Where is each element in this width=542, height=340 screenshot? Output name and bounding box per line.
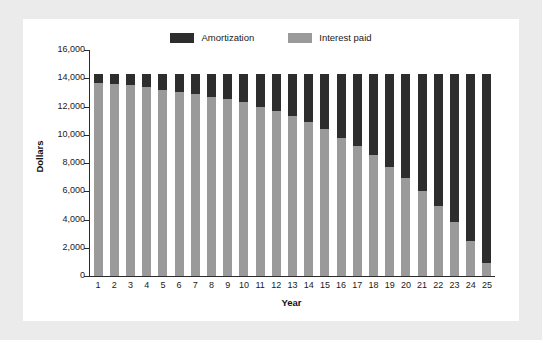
x-axis-tick-label: 7 xyxy=(193,279,198,291)
bar-segment-amortization xyxy=(369,74,378,155)
bar-segment-amortization xyxy=(207,74,216,97)
bar-segment-interest-paid xyxy=(320,129,329,276)
bar-segment-interest-paid xyxy=(191,94,200,276)
x-axis-tick-label: 16 xyxy=(336,279,346,291)
bar-column[interactable] xyxy=(450,74,459,276)
bar-column[interactable] xyxy=(175,74,184,276)
x-axis-tick-label: 6 xyxy=(177,279,182,291)
x-axis-tick-label: 12 xyxy=(271,279,281,291)
bar-segment-amortization xyxy=(175,74,184,92)
bar-column[interactable] xyxy=(191,74,200,276)
bar-segment-amortization xyxy=(158,74,167,90)
legend-entry-interest-paid[interactable]: Interest paid xyxy=(288,33,371,43)
bar-segment-interest-paid xyxy=(450,222,459,276)
legend-label-amortization: Amortization xyxy=(201,33,254,43)
x-axis-tick-label: 18 xyxy=(368,279,378,291)
bar-column[interactable] xyxy=(466,74,475,276)
chart-figure: Amortization Interest paid 02,0004,0006,… xyxy=(23,19,519,321)
bar-segment-amortization xyxy=(239,74,248,102)
plot-area: 02,0004,0006,0008,00010,00012,00014,0001… xyxy=(89,50,494,276)
bar-column[interactable] xyxy=(369,74,378,276)
x-axis-tick-label: 15 xyxy=(320,279,330,291)
bar-segment-amortization xyxy=(94,74,103,82)
bar-segment-interest-paid xyxy=(158,90,167,276)
x-axis-tick-label: 1 xyxy=(96,279,101,291)
bar-segment-interest-paid xyxy=(94,83,103,277)
bar-column[interactable] xyxy=(223,74,232,276)
x-axis-tick-label: 3 xyxy=(128,279,133,291)
chart-legend: Amortization Interest paid xyxy=(23,29,519,47)
x-axis-line xyxy=(89,276,495,277)
legend-entry-amortization[interactable]: Amortization xyxy=(170,33,254,43)
bar-column[interactable] xyxy=(434,74,443,276)
bar-segment-interest-paid xyxy=(385,167,394,276)
bar-segment-interest-paid xyxy=(288,116,297,276)
bar-segment-interest-paid xyxy=(256,107,265,276)
x-axis-tick-label: 23 xyxy=(449,279,459,291)
bar-segment-interest-paid xyxy=(142,87,151,276)
bar-series-group xyxy=(90,50,495,276)
bar-column[interactable] xyxy=(110,74,119,276)
x-axis-tick-label: 11 xyxy=(255,279,264,291)
bar-segment-amortization xyxy=(337,74,346,138)
bar-column[interactable] xyxy=(288,74,297,276)
bar-segment-amortization xyxy=(385,74,394,167)
bar-column[interactable] xyxy=(94,74,103,276)
bar-segment-interest-paid xyxy=(126,85,135,276)
bar-segment-amortization xyxy=(142,74,151,87)
y-axis-tick-label: 2,000 xyxy=(62,242,85,253)
bar-segment-amortization xyxy=(450,74,459,222)
bar-column[interactable] xyxy=(207,74,216,276)
y-axis-tick-label: 8,000 xyxy=(62,157,85,168)
bar-segment-amortization xyxy=(223,74,232,99)
x-axis-tick-label: 25 xyxy=(482,279,492,291)
bar-segment-interest-paid xyxy=(353,146,362,276)
bar-segment-amortization xyxy=(466,74,475,241)
x-axis-tick-label: 10 xyxy=(239,279,249,291)
bar-segment-interest-paid xyxy=(207,97,216,276)
bar-column[interactable] xyxy=(385,74,394,276)
bar-column[interactable] xyxy=(304,74,313,276)
bar-column[interactable] xyxy=(320,74,329,276)
x-axis-tick-label: 17 xyxy=(352,279,362,291)
y-axis-tick-label: 12,000 xyxy=(57,101,85,112)
y-axis-tick-label: 14,000 xyxy=(57,72,85,83)
bar-segment-interest-paid xyxy=(239,102,248,276)
bar-column[interactable] xyxy=(239,74,248,276)
bar-column[interactable] xyxy=(142,74,151,276)
x-axis-tick-label: 5 xyxy=(160,279,165,291)
bar-column[interactable] xyxy=(158,74,167,276)
bar-column[interactable] xyxy=(256,74,265,276)
bar-segment-interest-paid xyxy=(482,263,491,276)
y-axis-title: Dollars xyxy=(34,127,45,187)
bar-column[interactable] xyxy=(401,74,410,276)
bar-segment-interest-paid xyxy=(175,92,184,276)
x-axis-tick-label: 4 xyxy=(144,279,149,291)
bar-segment-amortization xyxy=(288,74,297,116)
bar-segment-amortization xyxy=(418,74,427,191)
y-axis-tick-label: 10,000 xyxy=(57,129,85,140)
bar-segment-amortization xyxy=(304,74,313,122)
bar-segment-interest-paid xyxy=(418,191,427,276)
x-axis-tick-label: 20 xyxy=(401,279,411,291)
legend-swatch-interest-paid xyxy=(288,33,312,43)
x-axis-tick-label: 14 xyxy=(304,279,314,291)
x-axis-tick-label: 19 xyxy=(385,279,395,291)
bar-column[interactable] xyxy=(482,74,491,276)
legend-label-interest-paid: Interest paid xyxy=(319,33,371,43)
y-axis-tick-label: 4,000 xyxy=(62,214,85,225)
bar-column[interactable] xyxy=(272,74,281,276)
bar-segment-interest-paid xyxy=(434,206,443,276)
y-axis-tick-label: 6,000 xyxy=(62,185,85,196)
x-axis-title: Year xyxy=(89,297,494,308)
y-axis-tick-label: 0 xyxy=(80,270,85,281)
bar-segment-interest-paid xyxy=(223,99,232,276)
bar-column[interactable] xyxy=(337,74,346,276)
x-axis-tick-label: 21 xyxy=(417,279,427,291)
bar-column[interactable] xyxy=(418,74,427,276)
x-axis-tick-labels: 1234567891011121314151617181920212223242… xyxy=(90,279,495,293)
bar-segment-amortization xyxy=(320,74,329,129)
bar-column[interactable] xyxy=(353,74,362,276)
bar-column[interactable] xyxy=(126,74,135,276)
bar-segment-interest-paid xyxy=(304,122,313,276)
